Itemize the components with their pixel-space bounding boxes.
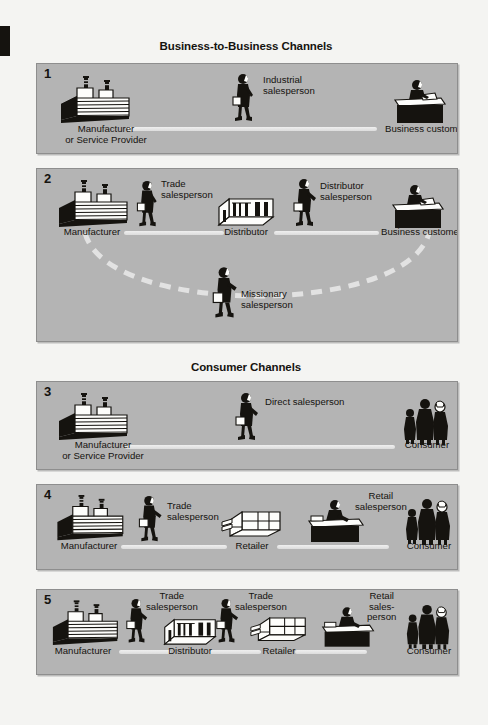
missionary-salesperson-label-line2: salesperson: [241, 300, 293, 311]
consumer-group-icon: [405, 496, 451, 546]
store-icon: [220, 510, 284, 544]
manufacturer-label: Manufacturer or Service Provider: [51, 124, 161, 145]
walking-salesperson-icon: [290, 178, 320, 232]
factory-icon: [59, 76, 135, 128]
trade-salesperson-2-label-line1: Trade: [235, 591, 287, 602]
panel-3-number: 3: [44, 385, 51, 398]
consumer-label: Consumer: [401, 646, 457, 657]
direct-salesperson-label: Direct salesperson: [265, 397, 344, 408]
warehouse-icon: [215, 195, 277, 227]
panel-2-number: 2: [44, 172, 51, 185]
panel-4: 4 Manufacturer: [36, 484, 458, 570]
factory-icon: [55, 495, 129, 545]
walking-salesperson-icon: [229, 73, 259, 127]
distributor-salesperson-label: Distributor salesperson: [320, 181, 372, 202]
walking-salesperson-icon: [135, 495, 165, 547]
desk-person-icon: [387, 183, 447, 231]
connector-manufacturer-to-customer: [127, 127, 377, 131]
manufacturer-label: Manufacturer: [53, 541, 125, 552]
manufacturer-label-line2: or Service Provider: [51, 135, 161, 146]
business-customer-label: Business customer: [385, 124, 455, 135]
retailer-label: Retailer: [219, 541, 285, 552]
missionary-salesperson-label: Missionary salesperson: [241, 289, 293, 310]
distributor-salesperson-label-line1: Distributor: [320, 181, 372, 192]
factory-icon: [57, 180, 133, 232]
distributor-label: Distributor: [159, 646, 221, 657]
trade-salesperson-label: Trade salesperson: [161, 179, 213, 200]
page-edge-marker: [0, 26, 10, 56]
factory-icon: [57, 393, 133, 445]
business-customer-label: Business customer: [381, 227, 455, 238]
walking-salesperson-icon: [209, 266, 241, 324]
walking-salesperson-icon: [133, 180, 163, 232]
manufacturer-label: Manufacturer: [47, 646, 119, 657]
retail-salesperson-label: Retail sales- person: [367, 591, 396, 623]
trade-salesperson-2-label-line2: salesperson: [235, 602, 287, 613]
retailer-label: Retailer: [249, 646, 309, 657]
consumer-label: Consumer: [401, 541, 457, 552]
trade-salesperson-1-label-line2: salesperson: [146, 602, 198, 613]
panel-4-number: 4: [44, 488, 51, 501]
walking-salesperson-icon: [232, 392, 262, 446]
industrial-salesperson-label: Industrial salesperson: [263, 75, 315, 96]
panel-1-number: 1: [44, 67, 51, 80]
retail-salesperson-label-line1: Retail: [355, 491, 407, 502]
desk-person-icon: [389, 78, 449, 126]
section-title-consumer: Consumer Channels: [36, 361, 456, 373]
retail-salesperson-label-line2: salesperson: [355, 502, 407, 513]
connector-retailer-to-consumer: [277, 545, 389, 549]
panel-1: 1: [36, 63, 458, 154]
trade-salesperson-label-line1: Trade: [167, 501, 219, 512]
diagram-page: Business-to-Business Channels 1: [0, 0, 488, 725]
panel-3: 3 Manufacturer or Se: [36, 381, 458, 470]
trade-salesperson-label-line2: salesperson: [161, 190, 213, 201]
manufacturer-label: Manufacturer: [55, 227, 129, 238]
distributor-label: Distributor: [213, 227, 279, 238]
panel-5: 5 Manufacturer: [36, 589, 458, 675]
retail-salesperson-label-line3: person: [367, 612, 396, 623]
section-title-business-to-business: Business-to-Business Channels: [36, 40, 456, 52]
trade-salesperson-label-line2: salesperson: [167, 512, 219, 523]
manufacturer-label-line2: or Service Provider: [47, 451, 159, 462]
manufacturer-label-line1: Manufacturer: [51, 124, 161, 135]
retail-salesperson-label: Retail salesperson: [355, 491, 407, 512]
manufacturer-label: Manufacturer or Service Provider: [47, 440, 159, 461]
missionary-salesperson-label-line1: Missionary: [241, 289, 293, 300]
retail-salesperson-label-line1: Retail: [367, 591, 396, 602]
panel-2: 2: [36, 168, 458, 342]
trade-salesperson-label-line1: Trade: [161, 179, 213, 190]
consumer-label: Consumer: [399, 440, 455, 451]
warehouse-icon: [161, 616, 219, 646]
trade-salesperson-1-label-line1: Trade: [146, 591, 198, 602]
trade-salesperson-label: Trade salesperson: [167, 501, 219, 522]
industrial-salesperson-label-line1: Industrial: [263, 75, 315, 86]
manufacturer-label-line1: Manufacturer: [47, 440, 159, 451]
store-icon: [249, 616, 309, 648]
trade-salesperson-2-label: Trade salesperson: [235, 591, 287, 612]
trade-salesperson-1-label: Trade salesperson: [146, 591, 198, 612]
consumer-group-icon: [405, 602, 451, 650]
factory-icon: [51, 600, 123, 650]
distributor-salesperson-label-line2: salesperson: [320, 192, 372, 203]
industrial-salesperson-label-line2: salesperson: [263, 86, 315, 97]
